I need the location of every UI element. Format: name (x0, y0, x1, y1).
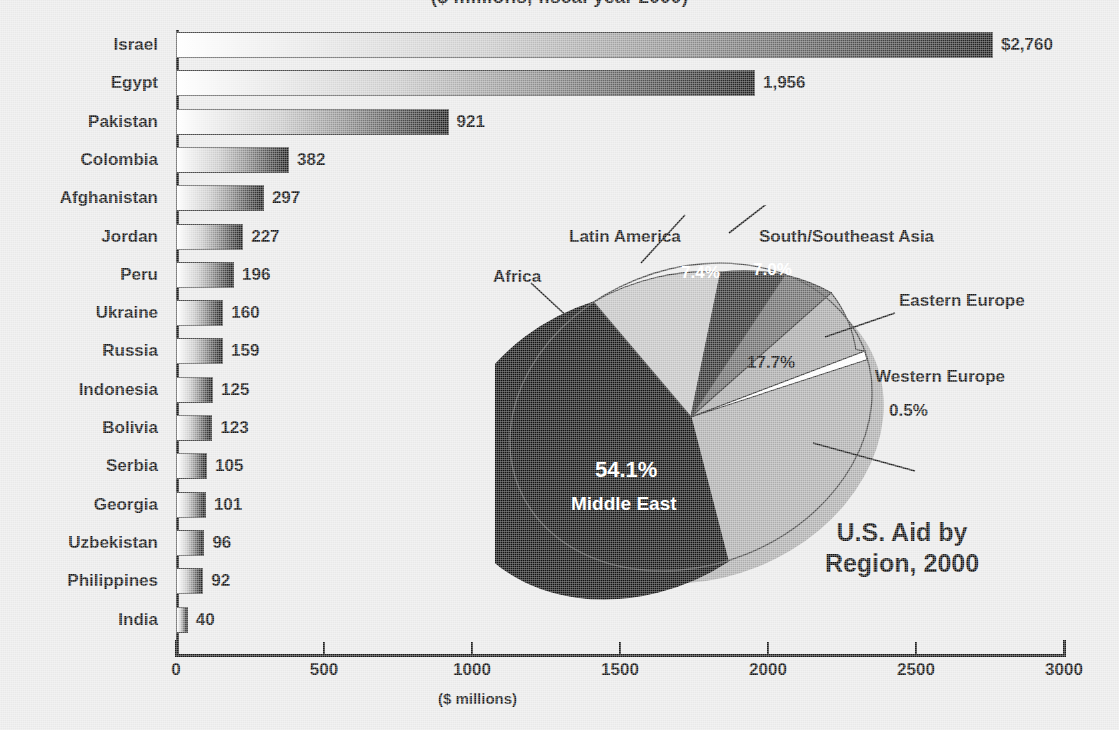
pie-label-middle-east: Middle East (571, 493, 677, 515)
x-axis-tick-label: 1000 (453, 660, 491, 680)
bar (176, 32, 993, 58)
bar-category-label: Egypt (0, 70, 158, 96)
pie-chart: Africa Latin America South/Southeast Asi… (495, 205, 1115, 630)
x-axis-tick-label: 0 (171, 660, 180, 680)
bar-value-label: 123 (212, 415, 248, 441)
x-axis-caption-text: ($ millions) (438, 690, 517, 707)
pie-value-africa: 13.3% (561, 343, 609, 363)
bar-category-label: Afghanistan (0, 185, 158, 211)
bar-value-label: 227 (243, 224, 279, 250)
bar-row: Colombia382 (0, 147, 1119, 173)
bar (176, 453, 207, 479)
bar-value-label: 921 (449, 109, 485, 135)
x-axis-tick (915, 642, 917, 655)
pie-title-line2: Region, 2000 (777, 548, 1027, 579)
pie-value-western-europe: 0.5% (889, 401, 928, 421)
bar-category-label: Peru (0, 262, 158, 288)
bar (176, 492, 206, 518)
bar-category-label: Indonesia (0, 377, 158, 403)
bar-category-label: Jordan (0, 224, 158, 250)
x-axis-tick-label: 2000 (749, 660, 787, 680)
bar (176, 530, 204, 556)
bar-category-label: India (0, 607, 158, 633)
x-axis-tick (471, 642, 473, 655)
x-axis-caption: ($ millions) (0, 690, 1119, 707)
pie-value-latin-america: 7.4% (681, 263, 720, 283)
bar-category-label: Philippines (0, 568, 158, 594)
bar-value-label: 1,956 (755, 70, 806, 96)
pie-callout-eastern-europe-label: Eastern Europe (899, 291, 1025, 311)
bar-row: Pakistan921 (0, 109, 1119, 135)
x-axis-tick (1063, 640, 1066, 657)
bar-value-label: 382 (289, 147, 325, 173)
pie-value-eastern-europe: 17.7% (747, 353, 795, 373)
pie-callout-south-southeast-asia-label: South/Southeast Asia (759, 227, 934, 247)
x-axis-tick-label: 500 (310, 660, 338, 680)
x-axis-tick-label: 3000 (1045, 660, 1083, 680)
bar-category-label: Serbia (0, 453, 158, 479)
bar-category-label: Colombia (0, 147, 158, 173)
pie-title-line1: U.S. Aid by (777, 517, 1027, 548)
bar-value-label: 297 (264, 185, 300, 211)
x-axis-tick (175, 640, 178, 657)
bar-value-label: 196 (234, 262, 270, 288)
bar (176, 338, 223, 364)
bar-value-label: 125 (213, 377, 249, 403)
bar (176, 224, 243, 250)
bar-row: Israel$2,760 (0, 32, 1119, 58)
bar-value-label: 159 (223, 338, 259, 364)
bar (176, 377, 213, 403)
bar-category-label: Israel (0, 32, 158, 58)
bar (176, 70, 755, 96)
bar (176, 568, 203, 594)
bar (176, 147, 289, 173)
x-axis-tick (767, 642, 769, 655)
x-axis-tick (619, 642, 621, 655)
pie-callout-western-europe-label: Western Europe (875, 367, 1005, 387)
bar-value-label: $2,760 (993, 32, 1053, 58)
bar-value-label: 101 (206, 492, 242, 518)
x-axis-tick (323, 642, 325, 655)
bar-category-label: Bolivia (0, 415, 158, 441)
bar (176, 300, 223, 326)
bar (176, 262, 234, 288)
bar-value-label: 92 (203, 568, 230, 594)
bar-category-label: Georgia (0, 492, 158, 518)
bar (176, 185, 264, 211)
bar (176, 109, 449, 135)
pie-value-middle-east: 54.1% (595, 457, 657, 483)
bar-category-label: Uzbekistan (0, 530, 158, 556)
x-axis-tick-label: 1500 (601, 660, 639, 680)
bar (176, 415, 212, 441)
bar-value-label: 160 (223, 300, 259, 326)
bar-category-label: Pakistan (0, 109, 158, 135)
pie-callout-africa-label: Africa (493, 267, 541, 287)
bar (176, 607, 188, 633)
bar-category-label: Ukraine (0, 300, 158, 326)
x-axis-tick-label: 2500 (897, 660, 935, 680)
bar-value-label: 105 (207, 453, 243, 479)
bar-category-label: Russia (0, 338, 158, 364)
pie-value-south-southeast-asia: 7.0% (753, 260, 792, 280)
bar-row: Egypt1,956 (0, 70, 1119, 96)
bar-value-label: 96 (204, 530, 231, 556)
bar-value-label: 40 (188, 607, 215, 633)
pie-callout-latin-america-label: Latin America (569, 227, 681, 247)
